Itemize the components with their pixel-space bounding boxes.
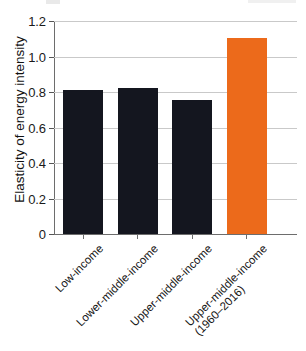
- crop-artifact-left: [46, 0, 60, 4]
- x-axis-category-label-line: Low-income: [53, 242, 105, 294]
- y-axis-tick: [49, 92, 54, 93]
- crop-artifact-right: [248, 0, 296, 3]
- bar: [227, 38, 267, 234]
- y-axis-tick-label: 0.2: [28, 193, 46, 206]
- y-axis-tick-label: 1.2: [28, 15, 46, 28]
- x-axis-category-label: Low-income: [53, 242, 106, 295]
- y-axis-tick: [49, 21, 54, 22]
- y-axis-tick: [49, 163, 54, 164]
- y-axis-tick: [49, 199, 54, 200]
- x-axis-category-label-line: (1960–2016): [192, 251, 279, 338]
- plot-area: [54, 21, 297, 234]
- y-axis-tick: [49, 57, 54, 58]
- x-axis-tick-labels: Low-incomeLower-middle-incomeUpper-middl…: [0, 234, 306, 351]
- bar: [172, 100, 212, 234]
- bar-chart-figure: Elasticity of energy intensity 00.20.40.…: [0, 0, 306, 351]
- bar: [63, 90, 103, 234]
- y-axis-tick: [49, 128, 54, 129]
- y-axis-tick-label: 1.0: [28, 51, 46, 64]
- y-axis-tick-label: 0.4: [28, 157, 46, 170]
- y-axis-tick-label: 0.8: [28, 86, 46, 99]
- y-axis-tick-labels: 00.20.40.60.81.01.2: [0, 21, 46, 234]
- y-axis-tick-label: 0.6: [28, 122, 46, 135]
- bar: [118, 88, 158, 234]
- gridline: [54, 21, 297, 22]
